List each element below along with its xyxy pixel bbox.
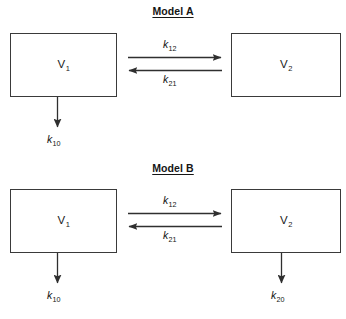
model-a-v2-subscript: 2 <box>288 64 292 73</box>
model-b-v1-symbol: V <box>58 214 66 226</box>
k12-subscript: 12 <box>169 200 177 209</box>
model-b-title: Model B <box>0 162 346 174</box>
model-b-rate-k10: k10 <box>47 290 60 301</box>
k12-subscript: 12 <box>169 44 177 53</box>
k10-subscript: 10 <box>53 295 61 304</box>
model-b-v2-symbol: V <box>280 214 288 226</box>
model-a-panel: Model A V1 V2 k12 k21 k10 <box>0 0 346 160</box>
model-a-compartment-v2: V2 <box>231 33 341 97</box>
model-b-v1-label: V1 <box>11 215 116 227</box>
k10-symbol: k <box>47 289 52 301</box>
model-b-panel: Model B V1 V2 k12 k21 k10 k20 <box>0 160 346 319</box>
model-a-compartment-v1: V1 <box>10 33 117 97</box>
model-a-rate-k12: k12 <box>163 39 176 50</box>
model-a-v2-label: V2 <box>232 59 340 71</box>
model-b-v2-label: V2 <box>232 215 340 227</box>
compartment-model-figure: Model A V1 V2 k12 k21 k10 Model B V1 <box>0 0 346 319</box>
model-b-rate-k12: k12 <box>163 195 176 206</box>
k21-subscript: 21 <box>169 235 177 244</box>
k21-subscript: 21 <box>169 79 177 88</box>
model-a-v1-label: V1 <box>11 59 116 71</box>
model-a-v2-symbol: V <box>280 58 288 70</box>
model-a-title: Model A <box>0 5 346 17</box>
model-b-v2-subscript: 2 <box>288 220 292 229</box>
model-b-compartment-v1: V1 <box>10 189 117 253</box>
model-a-rate-k21: k21 <box>163 74 176 85</box>
model-a-v1-subscript: 1 <box>66 64 70 73</box>
model-a-rate-k10: k10 <box>47 134 60 145</box>
k20-subscript: 20 <box>277 295 285 304</box>
k12-symbol: k <box>163 38 168 50</box>
k10-subscript: 10 <box>53 139 61 148</box>
k21-symbol: k <box>163 229 168 241</box>
model-b-rate-k20: k20 <box>271 290 284 301</box>
model-b-compartment-v2: V2 <box>231 189 341 253</box>
model-b-v1-subscript: 1 <box>66 220 70 229</box>
k10-symbol: k <box>47 133 52 145</box>
k20-symbol: k <box>271 289 276 301</box>
k21-symbol: k <box>163 73 168 85</box>
model-b-rate-k21: k21 <box>163 230 176 241</box>
k12-symbol: k <box>163 194 168 206</box>
model-a-v1-symbol: V <box>58 58 66 70</box>
